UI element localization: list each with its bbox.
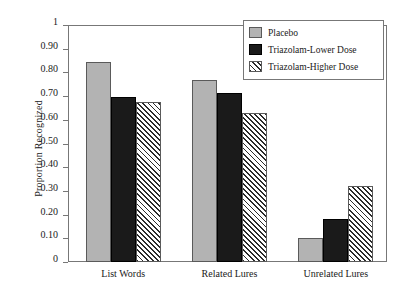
bar-placebo-group-3 <box>298 238 323 262</box>
legend-item-higher-dose: Triazolam-Higher Dose <box>249 58 379 75</box>
y-axis-tick-label: 0.80 <box>41 64 59 74</box>
y-axis-tick-label: 0.30 <box>41 183 59 193</box>
x-axis-label: List Words <box>68 268 179 279</box>
y-axis-tick-label: 0.10 <box>41 230 59 240</box>
bar-higher-group-1 <box>136 102 161 262</box>
legend-label-higher-dose: Triazolam-Higher Dose <box>268 62 358 72</box>
x-axis-label: Related Lures <box>174 268 285 279</box>
bar-higher-group-3 <box>348 186 373 262</box>
legend-swatch-lower-dose <box>249 44 262 55</box>
x-axis-label: Unrelated Lures <box>280 268 391 279</box>
bar-placebo-group-2 <box>192 80 217 262</box>
bar-lower-group-2 <box>217 93 242 262</box>
legend-swatch-higher-dose <box>249 61 262 72</box>
legend-label-placebo: Placebo <box>268 28 298 38</box>
bar-placebo-group-1 <box>86 62 111 262</box>
y-axis-tick-label: 0.50 <box>41 136 59 146</box>
bar-lower-group-1 <box>111 97 136 262</box>
legend-item-lower-dose: Triazolam-Lower Dose <box>249 41 379 58</box>
y-axis-tick-label: 0 <box>53 254 58 264</box>
bar-higher-group-2 <box>242 113 267 262</box>
y-axis-tick-mark <box>63 262 68 263</box>
bar-chart: Proportion Recognized 10.900.800.700.600… <box>0 0 417 296</box>
y-axis-tick-label: 0.20 <box>41 207 59 217</box>
y-axis-tick-label: 0.40 <box>41 159 59 169</box>
legend-swatch-placebo <box>249 27 262 38</box>
y-axis-tick-label: 0.70 <box>41 88 59 98</box>
legend-label-lower-dose: Triazolam-Lower Dose <box>268 45 357 55</box>
y-axis-tick-label: 0.90 <box>41 41 59 51</box>
y-axis-title: Proportion Recognized <box>33 49 44 249</box>
y-axis-tick-label: 1 <box>53 17 58 27</box>
y-axis-tick-label: 0.60 <box>41 112 59 122</box>
legend-item-placebo: Placebo <box>249 24 379 41</box>
legend: Placebo Triazolam-Lower Dose Triazolam-H… <box>243 20 384 80</box>
bar-lower-group-3 <box>323 219 348 262</box>
